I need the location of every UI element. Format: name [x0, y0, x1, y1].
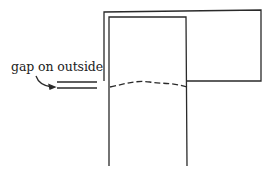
gap-annotation-label: gap on outside	[11, 59, 103, 74]
dashed-seam	[110, 81, 187, 87]
arrowhead-icon	[49, 85, 55, 90]
diagram-canvas: gap on outside	[0, 0, 274, 175]
inner-tube	[109, 17, 187, 166]
outer-sleeve	[104, 10, 261, 81]
diagram-drawing	[0, 0, 274, 175]
